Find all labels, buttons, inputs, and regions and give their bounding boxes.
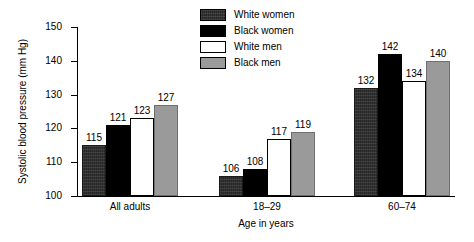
bar-value-label: 119 — [295, 119, 311, 131]
legend-swatch-icon-white-women — [200, 9, 226, 21]
bar-value-label: 117 — [271, 126, 287, 138]
y-axis-tick: 120 — [71, 128, 77, 129]
bar-chart-figure: White women Black women White men Black … — [0, 0, 474, 242]
bar: 121 — [106, 125, 130, 196]
bar: 108 — [243, 169, 267, 196]
bar: 119 — [291, 132, 315, 196]
bar-value-label: 115 — [86, 132, 102, 144]
bar: 134 — [402, 81, 426, 196]
y-axis-tick: 130 — [71, 95, 77, 96]
bar: 132 — [354, 88, 378, 196]
bar: 142 — [378, 54, 402, 196]
bar: 140 — [426, 61, 450, 196]
y-axis-tick-label: 120 — [32, 121, 62, 134]
x-axis-line — [77, 196, 455, 197]
bar-value-label: 142 — [382, 41, 399, 53]
bar: 106 — [219, 176, 243, 196]
bar-value-label: 127 — [158, 92, 175, 104]
plot-area: 100110120130140150 115121123127106108117… — [77, 27, 455, 196]
y-axis-tick-label: 150 — [32, 20, 62, 33]
bar-value-label: 134 — [406, 68, 423, 80]
bar-value-label: 123 — [134, 105, 151, 117]
x-axis-title: Age in years — [77, 218, 455, 229]
bar-value-label: 106 — [223, 163, 240, 175]
bar-value-label: 132 — [358, 75, 375, 87]
y-axis-tick-label: 140 — [32, 54, 62, 67]
y-axis-title: Systolic blood pressure (mm Hg) — [16, 27, 30, 196]
bar-value-label: 108 — [247, 156, 264, 168]
legend-item-white-women: White women — [200, 7, 330, 22]
y-axis-line — [77, 27, 78, 196]
y-axis-tick: 110 — [71, 162, 77, 163]
bar-value-label: 121 — [110, 112, 127, 124]
x-axis-group-label: 60–74 — [388, 201, 416, 212]
y-axis-tick-label: 130 — [32, 88, 62, 101]
bar: 127 — [154, 105, 178, 196]
x-axis-group-label: 18–29 — [253, 201, 281, 212]
y-axis-tick-label: 110 — [32, 155, 62, 168]
y-axis-tick: 140 — [71, 61, 77, 62]
bar: 115 — [82, 145, 106, 196]
legend-label-white-women: White women — [234, 9, 295, 21]
bar: 123 — [130, 118, 154, 196]
y-axis-tick: 100 — [71, 196, 77, 197]
x-axis-group-label: All adults — [110, 201, 151, 212]
bar: 117 — [267, 139, 291, 196]
bar-value-label: 140 — [430, 48, 447, 60]
y-axis-tick: 150 — [71, 27, 77, 28]
y-axis-tick-label: 100 — [32, 189, 62, 202]
